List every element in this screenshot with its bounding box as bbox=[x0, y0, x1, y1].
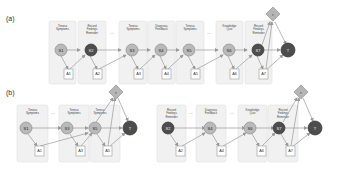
state-node: S1 bbox=[20, 122, 32, 134]
box-label-line: Symptoms bbox=[67, 111, 81, 115]
svg-text:A4: A4 bbox=[164, 72, 169, 76]
svg-text:S6: S6 bbox=[227, 48, 233, 53]
action-node: A6 bbox=[257, 146, 266, 156]
action-node: A3 bbox=[76, 146, 85, 156]
box-label-line: Symptoms bbox=[26, 111, 40, 115]
svg-text:A1: A1 bbox=[66, 72, 71, 76]
action-node: A7 bbox=[286, 146, 295, 156]
svg-text:S4: S4 bbox=[208, 126, 214, 131]
svg-text:A3: A3 bbox=[78, 149, 83, 153]
svg-text:S5: S5 bbox=[187, 48, 193, 53]
action-node: A1 bbox=[35, 146, 44, 156]
state-node: S4 bbox=[204, 122, 216, 134]
svg-text:S7: S7 bbox=[256, 48, 262, 53]
box-label-line: Symptoms bbox=[183, 27, 197, 31]
action-node: A2 bbox=[93, 69, 102, 79]
box-label-line: Reminder bbox=[86, 31, 98, 35]
svg-text:A7: A7 bbox=[261, 72, 266, 76]
reward-node: r bbox=[266, 7, 280, 21]
state-node: S5 bbox=[89, 122, 101, 134]
box-label-line: Symptoms bbox=[93, 111, 107, 115]
svg-text:S4: S4 bbox=[159, 48, 165, 53]
svg-text:A7: A7 bbox=[288, 149, 293, 153]
svg-text:S1: S1 bbox=[59, 48, 65, 53]
panel-a-label: (a) bbox=[6, 15, 15, 23]
svg-text:A2: A2 bbox=[95, 72, 100, 76]
mdp-diagram: (a) Tenesa Symptoms Record Findings Remi… bbox=[0, 0, 341, 171]
ellipsis: ... bbox=[189, 110, 192, 115]
box-label-line: Feedback bbox=[155, 27, 168, 31]
ellipsis: ... bbox=[207, 30, 210, 35]
reward-node: r bbox=[109, 85, 123, 99]
reward-node: r bbox=[294, 85, 308, 99]
action-node: A5 bbox=[191, 69, 200, 79]
svg-text:S2: S2 bbox=[166, 126, 172, 131]
panel-b-left-group: Tenesa Symptoms ... Tenesa Symptoms Tene… bbox=[17, 85, 137, 162]
ellipsis: ... bbox=[230, 110, 233, 115]
state-node: S3 bbox=[61, 122, 73, 134]
action-node: A1 bbox=[64, 69, 73, 79]
action-node: A3 bbox=[134, 69, 143, 79]
box-label-line: Symptoms bbox=[126, 27, 140, 31]
svg-text:A3: A3 bbox=[136, 72, 141, 76]
box-label-line: Reminder bbox=[165, 115, 177, 119]
svg-text:A1: A1 bbox=[37, 149, 42, 153]
state-node: S7 bbox=[273, 122, 285, 134]
box-label-line: Symptoms bbox=[56, 27, 70, 31]
terminal-node: T bbox=[308, 121, 322, 135]
svg-text:S7: S7 bbox=[277, 126, 283, 131]
action-node: A4 bbox=[217, 146, 226, 156]
svg-text:A4: A4 bbox=[219, 149, 224, 153]
svg-text:A6: A6 bbox=[259, 149, 264, 153]
state-node: S6 bbox=[223, 44, 235, 56]
terminal-node: T bbox=[123, 121, 137, 135]
svg-text:A5: A5 bbox=[193, 72, 198, 76]
panel-b: (b) Tenesa Symptoms ... Tenesa Symptoms … bbox=[6, 85, 322, 162]
box-label-line: Feedback bbox=[205, 111, 218, 115]
action-node: A7 bbox=[259, 69, 268, 79]
svg-text:A2: A2 bbox=[178, 149, 183, 153]
svg-text:S2: S2 bbox=[89, 48, 95, 53]
box-label-line: Quiz bbox=[227, 27, 233, 31]
svg-text:A6: A6 bbox=[232, 72, 237, 76]
state-node: S5 bbox=[183, 44, 195, 56]
svg-text:S1: S1 bbox=[24, 126, 30, 131]
box-label-line: Reminder bbox=[252, 31, 264, 35]
panel-b-right-group: Record Findings Reminder ... Diagnosis F… bbox=[157, 85, 322, 162]
state-node: S6 bbox=[244, 122, 256, 134]
svg-text:S3: S3 bbox=[65, 126, 71, 131]
panel-b-label: (b) bbox=[6, 89, 15, 97]
svg-text:S5: S5 bbox=[93, 126, 99, 131]
svg-text:S3: S3 bbox=[130, 48, 136, 53]
action-node: A4 bbox=[162, 69, 171, 79]
ellipsis: ... bbox=[110, 30, 113, 35]
action-node: A5 bbox=[103, 146, 112, 156]
state-node: S2 bbox=[85, 44, 97, 56]
state-node: S2 bbox=[162, 122, 174, 134]
state-node: S1 bbox=[55, 44, 67, 56]
state-node: S3 bbox=[126, 44, 138, 56]
svg-text:S6: S6 bbox=[248, 126, 254, 131]
state-node: S4 bbox=[155, 44, 167, 56]
action-node: A6 bbox=[230, 69, 239, 79]
state-node: S7 bbox=[252, 44, 264, 56]
box-label-line: Quiz bbox=[250, 111, 256, 115]
action-node: A2 bbox=[176, 146, 185, 156]
panel-a: (a) Tenesa Symptoms Record Findings Remi… bbox=[6, 7, 295, 84]
svg-text:A5: A5 bbox=[105, 149, 110, 153]
ellipsis: ... bbox=[51, 110, 54, 115]
terminal-node: T bbox=[281, 43, 295, 57]
